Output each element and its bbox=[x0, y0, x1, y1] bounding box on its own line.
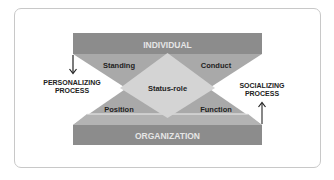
socializing-label: SOCIALIZING bbox=[239, 82, 285, 89]
standing-label: Standing bbox=[103, 61, 135, 70]
personalizing-process-label: PROCESS bbox=[55, 87, 90, 94]
status-role-label: Status-role bbox=[148, 84, 187, 93]
status-role-diagram: INDIVIDUAL ORGANIZATION Standing Conduct… bbox=[0, 0, 334, 180]
arrow-down-icon bbox=[70, 55, 77, 74]
personalizing-label: PERSONALIZING bbox=[43, 79, 101, 86]
conduct-label: Conduct bbox=[201, 61, 232, 70]
arrow-up-icon bbox=[259, 103, 266, 125]
individual-label: INDIVIDUAL bbox=[143, 40, 192, 50]
organization-label: ORGANIZATION bbox=[135, 131, 200, 141]
position-label: Position bbox=[104, 105, 134, 114]
function-label: Function bbox=[200, 105, 232, 114]
socializing-process-label: PROCESS bbox=[245, 90, 280, 97]
